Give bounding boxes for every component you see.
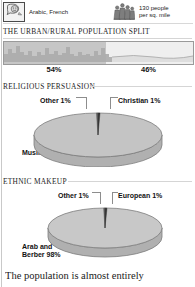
ethnic-label-european: European 1% <box>118 192 162 200</box>
section-rule-ethnic <box>68 181 192 182</box>
religion-pie-chart: Other 1% Christian 1% Muslim 98% <box>0 93 195 175</box>
ethnic-pie-chart: Other 1% European 1% Arab and Berber 98% <box>0 188 195 268</box>
fact-languages-label: Arabic, French <box>29 9 68 16</box>
religion-label-other: Other 1% <box>40 97 71 105</box>
ethnic-label-other: Other 1% <box>58 192 89 200</box>
speech-bubble-face-icon <box>3 2 25 22</box>
ethnic-pie-graphic <box>46 200 164 258</box>
leader-line-other-h <box>76 97 87 98</box>
leader-line-other-h <box>92 192 101 193</box>
section-rule-urban-rural <box>3 38 192 39</box>
urban-rural-labels: 54% 46% <box>3 65 192 77</box>
rural-percent-label: 46% <box>105 65 192 74</box>
body-paragraph: The population is almost entirely <box>5 270 193 282</box>
skyline-landscape-illustration <box>4 42 193 62</box>
fact-languages: Arabic, French <box>3 2 68 22</box>
leader-line-european-h <box>112 192 118 193</box>
people-group-icon <box>113 2 135 21</box>
religion-label-christian: Christian 1% <box>118 97 160 105</box>
fact-density-label: 130 people per sq. mile <box>139 5 170 19</box>
fact-density-line1: 130 people <box>139 5 169 11</box>
fact-density-line2: per sq. mile <box>139 12 170 19</box>
section-heading-ethnic: ETHNIC MAKEUP <box>3 177 67 186</box>
section-rule-religion <box>90 86 192 87</box>
section-heading-religion: RELIGIOUS PERSUASION <box>3 82 95 91</box>
section-heading-urban-rural: THE URBAN/RURAL POPULATION SPLIT <box>3 27 150 36</box>
fact-density: 130 people per sq. mile <box>113 2 170 21</box>
header-divider <box>3 23 193 24</box>
country-factfile-panel: Arabic, French <box>0 0 195 287</box>
urban-rural-bar <box>3 41 194 65</box>
religion-pie-graphic <box>32 105 164 167</box>
leader-line-christian-h <box>110 97 118 98</box>
header-facts: Arabic, French <box>3 2 193 24</box>
urban-percent-label: 54% <box>3 65 105 74</box>
